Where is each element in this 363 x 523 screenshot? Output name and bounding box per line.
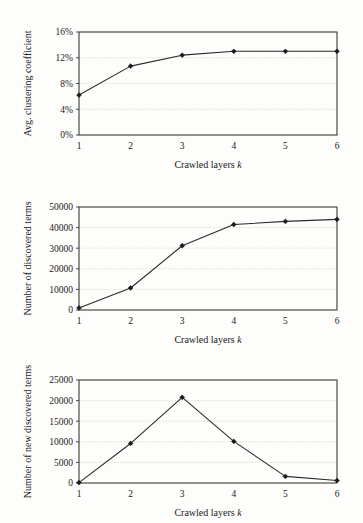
y-tick-label-3: 12% [56, 53, 74, 63]
y-tick-label-0: 0% [60, 130, 73, 140]
chart-2-group: 01000020000300004000050000123456Number o… [22, 201, 340, 345]
data-point-marker [128, 64, 133, 69]
x-axis-title-symbol: k [237, 159, 242, 170]
chart-canvas-1: 0%4%8%12%16%123456Avg. clustering coeffi… [0, 0, 363, 175]
y-tick-label-4: 20000 [49, 396, 73, 406]
x-tick-label-1: 2 [128, 489, 133, 499]
y-tick-label-1: 5000 [54, 458, 73, 468]
x-tick-label-2: 3 [180, 489, 185, 499]
data-point-marker [77, 93, 82, 98]
data-point-marker [231, 222, 236, 227]
x-tick-label-3: 4 [231, 316, 236, 326]
y-tick-label-4: 40000 [49, 223, 73, 233]
x-tick-label-3: 4 [231, 141, 236, 151]
data-point-marker [335, 49, 340, 54]
x-axis-title: Crawled layers k [174, 507, 242, 518]
figure-number-of-new-discovered-terms: 0500010000150002000025000123456Number of… [0, 348, 363, 523]
x-tick-label-0: 1 [77, 316, 82, 326]
x-tick-label-4: 5 [283, 489, 288, 499]
x-tick-label-5: 6 [335, 489, 340, 499]
data-point-marker [283, 49, 288, 54]
figure-page: 0%4%8%12%16%123456Avg. clustering coeffi… [0, 0, 363, 523]
chart-canvas-3: 0500010000150002000025000123456Number of… [0, 348, 363, 523]
y-axis-title: Number of discovered terms [22, 201, 33, 315]
data-point-marker [231, 49, 236, 54]
x-axis-title-text: Crawled layers [174, 507, 237, 518]
x-tick-label-0: 1 [77, 141, 82, 151]
x-tick-label-3: 4 [231, 489, 236, 499]
data-point-marker [180, 53, 185, 58]
y-tick-label-3: 15000 [49, 417, 73, 427]
x-tick-label-4: 5 [283, 141, 288, 151]
x-tick-label-1: 2 [128, 141, 133, 151]
y-tick-label-1: 4% [60, 105, 73, 115]
figure-number-of-discovered-terms: 01000020000300004000050000123456Number o… [0, 175, 363, 350]
x-tick-label-5: 6 [335, 316, 340, 326]
x-axis-title-text: Crawled layers [174, 159, 237, 170]
y-tick-label-5: 25000 [49, 375, 73, 385]
x-axis-title: Crawled layers k [174, 334, 242, 345]
x-axis-title-symbol: k [237, 334, 242, 345]
data-point-marker [335, 478, 340, 483]
data-point-marker [283, 219, 288, 224]
x-tick-label-5: 6 [335, 141, 340, 151]
y-axis-title: Number of new discovered terms [22, 365, 33, 498]
x-tick-label-1: 2 [128, 316, 133, 326]
x-tick-label-2: 3 [180, 316, 185, 326]
plot-frame [79, 380, 337, 483]
x-tick-label-2: 3 [180, 141, 185, 151]
y-tick-label-0: 0 [68, 305, 73, 315]
plot-frame [79, 207, 337, 310]
x-axis-title-text: Crawled layers [174, 334, 237, 345]
figure-avg-clustering-coefficient: 0%4%8%12%16%123456Avg. clustering coeffi… [0, 0, 363, 175]
y-tick-label-2: 8% [60, 79, 73, 89]
data-point-marker [335, 217, 340, 222]
series-line [79, 219, 337, 308]
chart-3-group: 0500010000150002000025000123456Number of… [22, 365, 340, 518]
y-tick-label-1: 10000 [49, 285, 73, 295]
chart-1-group: 0%4%8%12%16%123456Avg. clustering coeffi… [22, 27, 340, 170]
chart-canvas-2: 01000020000300004000050000123456Number o… [0, 175, 363, 350]
y-tick-label-2: 20000 [49, 264, 73, 274]
y-tick-label-5: 50000 [49, 202, 73, 212]
y-axis-title: Avg. clustering coefficient [22, 30, 33, 136]
x-axis-title-symbol: k [237, 507, 242, 518]
y-tick-label-4: 16% [56, 27, 74, 37]
y-tick-label-3: 30000 [49, 244, 73, 254]
series-line [79, 397, 337, 482]
x-axis-title: Crawled layers k [174, 159, 242, 170]
x-tick-label-4: 5 [283, 316, 288, 326]
y-tick-label-0: 0 [68, 478, 73, 488]
y-tick-label-2: 10000 [49, 437, 73, 447]
x-tick-label-0: 1 [77, 489, 82, 499]
